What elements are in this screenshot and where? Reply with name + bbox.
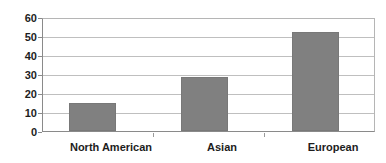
y-tick-label: 0 bbox=[7, 127, 37, 138]
y-tick-label: 40 bbox=[7, 51, 37, 62]
bar-north-american bbox=[69, 103, 116, 131]
bar-chart: 60 50 40 30 20 10 0 North American Asian… bbox=[0, 0, 386, 163]
x-category-label-european: European bbox=[308, 142, 359, 153]
x-category-label-asian: Asian bbox=[207, 142, 237, 153]
y-tick-label: 30 bbox=[7, 70, 37, 81]
y-tick-label: 20 bbox=[7, 89, 37, 100]
bar-european bbox=[292, 32, 339, 131]
y-tick-label: 60 bbox=[7, 13, 37, 24]
y-tick-mark bbox=[38, 132, 42, 133]
x-tick-mark bbox=[264, 133, 265, 137]
plot-area bbox=[42, 18, 375, 132]
x-category-label-north-american: North American bbox=[70, 142, 152, 153]
bar-asian bbox=[181, 77, 228, 131]
y-tick-label: 10 bbox=[7, 108, 37, 119]
x-tick-mark bbox=[153, 133, 154, 137]
y-tick-label: 50 bbox=[7, 32, 37, 43]
